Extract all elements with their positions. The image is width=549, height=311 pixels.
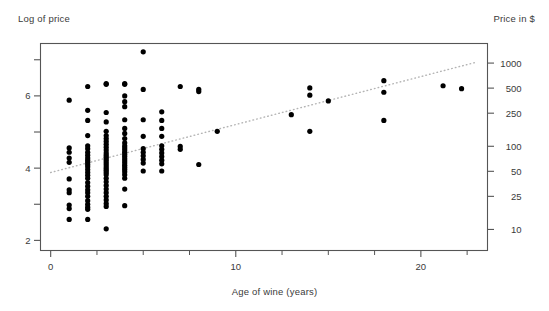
y2-tick-label: 500 (506, 83, 522, 94)
trend-line (51, 63, 475, 173)
data-point (67, 217, 72, 222)
data-point (122, 126, 127, 131)
data-point (122, 93, 127, 98)
data-point (178, 84, 183, 89)
data-point (104, 119, 109, 124)
data-point (104, 82, 109, 87)
y2-tick-label: 50 (511, 166, 522, 177)
data-point (104, 226, 109, 231)
y-tick-label: 6 (25, 90, 30, 101)
data-point (141, 160, 146, 165)
data-point (122, 176, 127, 181)
data-point (85, 207, 90, 212)
data-point (159, 126, 164, 131)
data-point (159, 118, 164, 123)
data-point (307, 129, 312, 134)
data-point (159, 168, 164, 173)
data-point (67, 206, 72, 211)
x-tick-label: 20 (416, 261, 427, 272)
data-point (85, 118, 90, 123)
x-tick-label: 10 (230, 261, 241, 272)
data-point (122, 82, 127, 87)
data-point (326, 98, 331, 103)
data-point (122, 186, 127, 191)
y2-tick-label: 250 (506, 108, 522, 119)
y2-tick-label: 10 (511, 224, 522, 235)
y-tick-label: 4 (25, 163, 30, 174)
y-axis-left-ticks: 246 (25, 60, 40, 246)
data-point (159, 134, 164, 139)
data-point (67, 190, 72, 195)
data-point (440, 83, 445, 88)
data-point (85, 133, 90, 138)
data-point (67, 176, 72, 181)
data-point (104, 204, 109, 209)
data-point (85, 108, 90, 113)
data-point (381, 78, 386, 83)
x-tick-label: 0 (48, 261, 53, 272)
data-point (307, 93, 312, 98)
data-point (141, 87, 146, 92)
regression-line (51, 63, 475, 173)
data-point (141, 134, 146, 139)
data-point (159, 161, 164, 166)
data-point (67, 150, 72, 155)
data-point (122, 104, 127, 109)
data-point (159, 109, 164, 114)
data-point (459, 86, 464, 91)
data-point (122, 203, 127, 208)
data-point (381, 118, 386, 123)
data-point (85, 84, 90, 89)
y-axis-right-ticks: 1025501002505001000 (488, 58, 522, 235)
data-point (122, 117, 127, 122)
data-point (67, 98, 72, 103)
data-point (67, 160, 72, 165)
x-axis-ticks: 01020 (48, 251, 467, 272)
y2-tick-label: 100 (506, 141, 522, 152)
chart-page: Log of price Price in $ Age of wine (yea… (0, 0, 549, 311)
data-point (289, 112, 294, 117)
data-point (196, 89, 201, 94)
data-point (381, 90, 386, 95)
data-point (104, 110, 109, 115)
y2-tick-label: 25 (511, 191, 522, 202)
scatter-plot: 01020 246 1025501002505001000 (0, 0, 549, 311)
data-point (141, 49, 146, 54)
y2-tick-label: 1000 (500, 58, 521, 69)
data-point (215, 129, 220, 134)
y-tick-label: 2 (25, 235, 30, 246)
data-points (67, 49, 465, 231)
data-point (122, 99, 127, 104)
data-point (307, 85, 312, 90)
data-point (196, 162, 201, 167)
data-point (178, 147, 183, 152)
data-point (85, 217, 90, 222)
data-point (141, 168, 146, 173)
data-point (122, 131, 127, 136)
data-point (141, 117, 146, 122)
